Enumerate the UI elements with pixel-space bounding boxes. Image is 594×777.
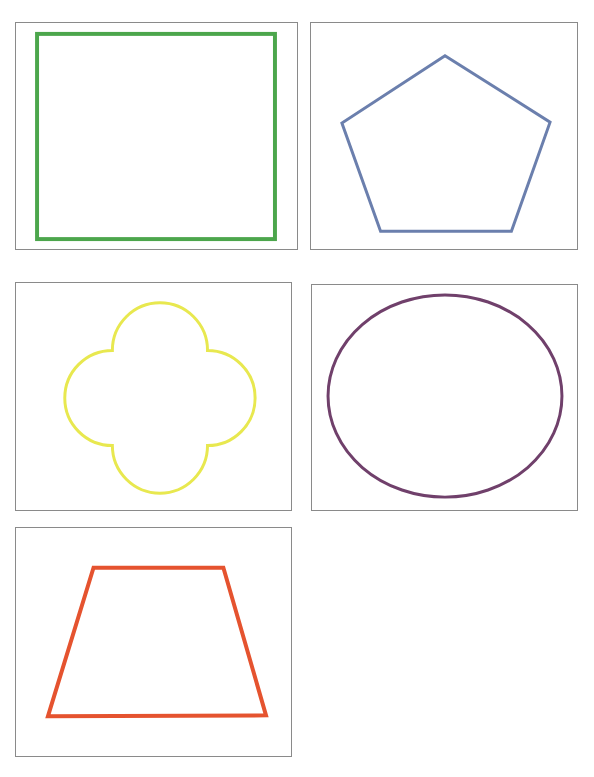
shape-quatrefoil [65, 303, 255, 493]
shape-panel-quatrefoil [15, 282, 292, 511]
shape-panel-trapezoid [15, 527, 292, 757]
shape-canvas-quatrefoil [16, 283, 291, 510]
shape-canvas-pentagon [311, 23, 577, 249]
shape-panel-ellipse [311, 284, 578, 511]
shape-square [37, 34, 275, 239]
shape-trapezoid [48, 568, 266, 717]
shape-ellipse [328, 295, 562, 497]
shape-panel-square [15, 22, 298, 250]
shape-pentagon [342, 56, 550, 231]
shape-canvas-ellipse [312, 285, 577, 510]
shape-panel-pentagon [310, 22, 578, 250]
shape-canvas-trapezoid [16, 528, 291, 756]
shape-grid-canvas [0, 0, 594, 777]
shape-canvas-square [16, 23, 297, 249]
